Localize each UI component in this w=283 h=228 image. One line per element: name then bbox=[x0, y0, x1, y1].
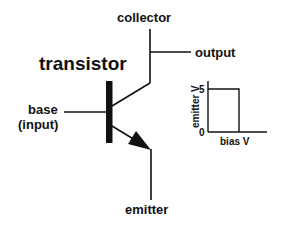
emitter-arrow-icon bbox=[128, 131, 151, 150]
graph-x-label: bias V bbox=[220, 136, 250, 147]
collector-label: collector bbox=[117, 10, 171, 25]
graph-step-line bbox=[208, 89, 239, 132]
transistor-diagram: transistor collector output base (input)… bbox=[0, 0, 283, 228]
emitter-vs-bias-graph: 5 0 emitter V bias V bbox=[190, 81, 267, 147]
graph-y-label: emitter V bbox=[190, 85, 201, 128]
output-label: output bbox=[195, 45, 236, 60]
emitter-label: emitter bbox=[125, 202, 168, 217]
base-label: base bbox=[28, 102, 58, 117]
collector-diagonal bbox=[112, 83, 150, 106]
diagram-title: transistor bbox=[39, 53, 127, 74]
base-input-label: (input) bbox=[18, 117, 58, 132]
base-bar bbox=[106, 81, 113, 143]
